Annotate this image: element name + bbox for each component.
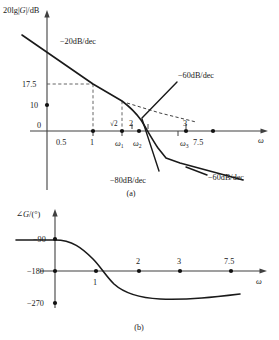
xtick-label-sqrt2: √2: [110, 120, 118, 128]
omega1-label: ω1: [115, 139, 124, 149]
xtick-label-3: 3: [183, 119, 187, 128]
point-phase-3: [178, 269, 182, 273]
ytick-label-10: 10: [30, 101, 38, 110]
point-phase-2: [137, 269, 141, 273]
omega3-label: ω3: [180, 139, 189, 149]
point-omega3: [184, 129, 188, 133]
magnitude-curve: [22, 35, 243, 180]
xtick-label-phase-3: 3: [177, 257, 181, 266]
ytick-label-minus-90: −90: [33, 235, 46, 244]
point-10db: [45, 103, 49, 107]
slope-label-80db-lower: −80dB/dec: [110, 176, 146, 185]
slope-label-60db-lower: −60dB/dec: [208, 173, 244, 182]
panel-a-x-axis-arrowhead: [261, 128, 269, 133]
point-phase-1: [94, 269, 98, 273]
xtick-label-phase-1: 1: [93, 278, 97, 287]
ytick-label-0: 0: [37, 121, 41, 130]
panel-b-x-axis-arrowhead: [260, 268, 268, 273]
panel-a-y-axis-label: 20lg|G|/dB: [3, 6, 40, 15]
xtick-label-phase-2: 2: [136, 257, 140, 266]
xtick-label-1: 1: [90, 138, 94, 147]
panel-b-y-axis-label: ∠G/(°): [16, 210, 41, 219]
panel-b-y-axis-arrowhead: [52, 209, 57, 217]
panel-a-caption: (a): [126, 189, 135, 198]
slope-label-20db: −20dB/dec: [60, 37, 96, 46]
panel-b-x-axis-label: ω: [256, 277, 262, 286]
xtick-label-7-5: 7.5: [193, 138, 203, 147]
point-minus-270: [53, 301, 57, 305]
figure-canvas: 20lg|G|/dB ω 17.5 10 0 0.5 1 √2 2 3 7.5 …: [0, 0, 279, 340]
point-omega1: [120, 129, 124, 133]
ytick-label-17-5: 17.5: [22, 80, 36, 89]
point-minus-90: [53, 237, 57, 241]
panel-a-x-axis-label: ω: [258, 136, 264, 145]
xtick-label-2: 2: [129, 119, 133, 128]
slope-label-60db-upper: −60dB/dec: [178, 71, 214, 80]
point-minus-180: [53, 269, 57, 273]
panel-b-caption: (b): [134, 323, 144, 332]
point-7-5: [211, 129, 215, 133]
ytick-label-minus-270: −270: [27, 299, 44, 308]
point-omega-1: [91, 129, 95, 133]
bode-plot-figure: 20lg|G|/dB ω 17.5 10 0 0.5 1 √2 2 3 7.5 …: [0, 0, 279, 340]
point-phase-7-5: [229, 269, 233, 273]
panel-a-y-axis-arrowhead: [44, 10, 49, 18]
panel-b-phase: ∠G/(°) ω −90 −180 −270 1 2 3 7.5 (b): [16, 209, 267, 332]
ytick-label-minus-180: −180: [27, 267, 44, 276]
point-omega2: [137, 129, 141, 133]
xtick-label-0-5: 0.5: [56, 138, 66, 147]
panel-a-magnitude: 20lg|G|/dB ω 17.5 10 0 0.5 1 √2 2 3 7.5 …: [3, 6, 268, 198]
phase-curve: [16, 240, 240, 299]
xtick-label-phase-7-5: 7.5: [224, 257, 234, 266]
omega2-label: ω2: [133, 139, 142, 149]
